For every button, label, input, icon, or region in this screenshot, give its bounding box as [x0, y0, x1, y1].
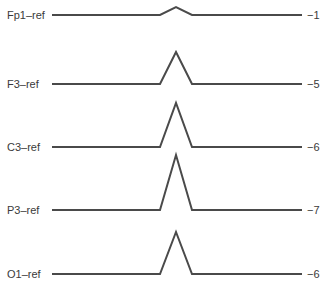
- amplitude-value-p3: −7: [307, 204, 320, 216]
- amplitude-value-o1: −6: [307, 268, 320, 280]
- channel-label-c3: C3–ref: [7, 141, 40, 153]
- trace-fp1: [52, 7, 302, 15]
- trace-f3: [52, 52, 302, 84]
- channel-label-o1: O1–ref: [7, 268, 41, 280]
- amplitude-value-fp1: −1: [307, 9, 320, 21]
- trace-c3: [52, 103, 302, 147]
- amplitude-value-c3: −6: [307, 141, 320, 153]
- channel-label-p3: P3–ref: [7, 204, 39, 216]
- amplitude-value-f3: −5: [307, 78, 320, 90]
- eeg-montage-chart: Fp1–ref F3–ref C3–ref P3–ref O1–ref −1 −…: [0, 0, 326, 286]
- traces-plot: [0, 0, 326, 286]
- channel-label-fp1: Fp1–ref: [7, 9, 45, 21]
- channel-label-f3: F3–ref: [7, 78, 39, 90]
- trace-p3: [52, 155, 302, 210]
- trace-o1: [52, 232, 302, 274]
